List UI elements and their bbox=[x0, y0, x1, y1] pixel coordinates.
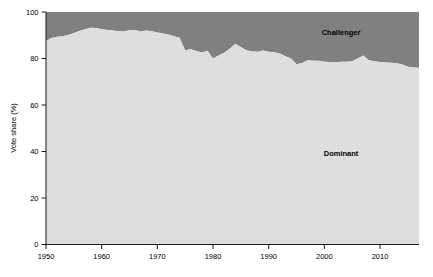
x-tick-label: 2000 bbox=[316, 252, 333, 261]
y-tick-label: 60 bbox=[30, 101, 38, 110]
x-tick-label: 1950 bbox=[38, 252, 55, 261]
x-tick-label: 1970 bbox=[149, 252, 166, 261]
stacked-area-layers bbox=[46, 12, 419, 245]
chart-canvas: 020406080100 195019601970198019902000201… bbox=[0, 0, 433, 277]
vote-share-area-chart: 020406080100 195019601970198019902000201… bbox=[0, 0, 433, 277]
y-tick-label: 80 bbox=[30, 54, 38, 63]
series-label-challenger: Challenger bbox=[322, 28, 361, 37]
series-label-dominant: Dominant bbox=[324, 149, 359, 158]
x-tick-label: 2010 bbox=[372, 252, 389, 261]
dominant-area-series bbox=[46, 28, 419, 245]
x-tick-label: 1990 bbox=[260, 252, 277, 261]
x-tick-label: 1980 bbox=[205, 252, 222, 261]
y-tick-label: 40 bbox=[30, 147, 38, 156]
y-tick-label: 0 bbox=[34, 240, 38, 249]
x-tick-label: 1960 bbox=[93, 252, 110, 261]
y-axis-title: Vote share (%) bbox=[9, 103, 18, 153]
y-tick-label: 100 bbox=[26, 8, 39, 17]
y-tick-label: 20 bbox=[30, 194, 38, 203]
